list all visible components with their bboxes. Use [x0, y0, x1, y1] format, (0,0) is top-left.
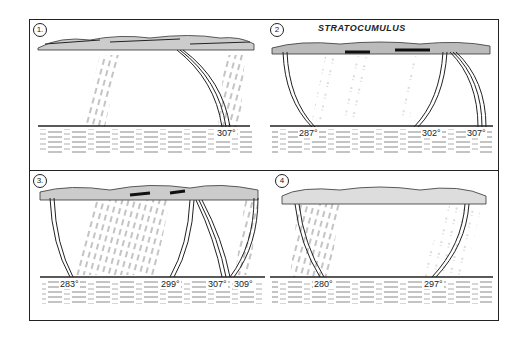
angle-label: 309° — [233, 279, 254, 289]
angle-label: 283° — [59, 279, 80, 289]
angle-label: 299° — [160, 279, 181, 289]
panel-number-4: 4 — [275, 174, 289, 188]
panel-4-art — [270, 187, 493, 304]
angle-label: 307° — [207, 279, 228, 289]
panel-number-2: 2 — [270, 23, 284, 37]
angle-label: 297° — [423, 279, 444, 289]
angle-label: 302° — [421, 128, 442, 138]
panel-number-1: 1. — [33, 23, 47, 37]
panel-number-3: 3. — [33, 174, 47, 188]
angle-label: 307° — [466, 128, 487, 138]
angle-label: 287° — [298, 128, 319, 138]
angle-label: 307° — [216, 128, 237, 138]
figure-title: STRATOCUMULUS — [318, 23, 406, 33]
angle-label: 280° — [313, 279, 334, 289]
